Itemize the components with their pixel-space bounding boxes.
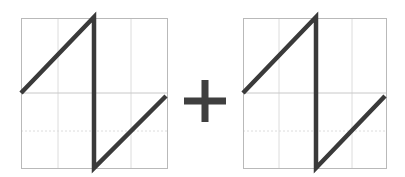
waveform-panel-right <box>0 0 405 177</box>
sawtooth-plot-right <box>0 0 405 177</box>
